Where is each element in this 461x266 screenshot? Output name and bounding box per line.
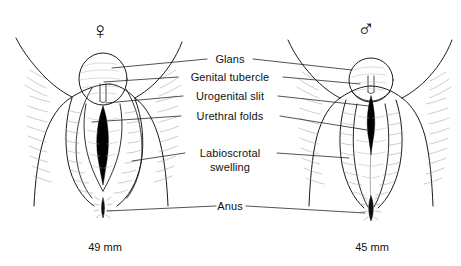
label-glans: Glans <box>215 52 244 66</box>
male-specimen-drawing <box>288 40 452 221</box>
anatomy-line-art <box>0 0 461 266</box>
label-urogenital-slit: Urogenital slit <box>196 89 264 103</box>
female-symbol-icon: ♀ <box>91 19 109 43</box>
measurement-right: 45 mm <box>355 241 389 253</box>
label-labioscrotal-swelling: Labioscrotal swelling <box>200 146 261 174</box>
label-genital-tubercle: Genital tubercle <box>191 70 270 84</box>
label-urethral-folds: Urethral folds <box>197 109 264 123</box>
female-specimen-drawing <box>16 38 182 218</box>
measurement-left: 49 mm <box>88 241 122 253</box>
label-line-1: Labioscrotal <box>200 147 261 159</box>
label-line-2: swelling <box>210 161 250 173</box>
male-symbol-icon: ♂ <box>357 17 375 41</box>
label-anus: Anus <box>217 199 242 213</box>
figure-canvas: ♀ ♂ Glans Genital tubercle Urogenital sl… <box>0 0 461 266</box>
